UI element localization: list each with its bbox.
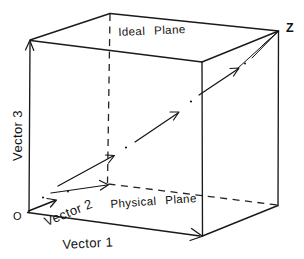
- edge-top-right-front: [202, 31, 279, 62]
- edge-front-left-vertical: [29, 43, 30, 212]
- edge-top-left-back: [30, 14, 110, 41]
- label-physical-word-2: Plane: [165, 192, 197, 206]
- diagonal-segment-1: [51, 185, 107, 193]
- diagonal-segment-4: [199, 69, 238, 95]
- label-physical-gap: [157, 204, 166, 205]
- cube-hidden-edges: [108, 14, 278, 205]
- diagonal-segment-2: [58, 156, 113, 186]
- edge-front-right-vertical: [202, 62, 203, 236]
- label-ideal-word-2: Plane: [154, 23, 186, 36]
- label-origin-point: O: [13, 210, 22, 222]
- vector-space-cube-diagram: IdealPlane PhysicalPlane Vector 3 Vector…: [0, 0, 304, 259]
- vector-2-axis: [29, 199, 57, 212]
- diagonal-dot-3: [125, 146, 127, 148]
- diagonal-dot-2: [67, 191, 69, 193]
- label-vector-1: Vector 1: [62, 234, 114, 252]
- diagonal-dot-1: [42, 196, 44, 198]
- diagonal-segment-3: [135, 113, 178, 142]
- edge-bottom-right: [203, 206, 279, 237]
- label-z-point: Z: [286, 21, 294, 35]
- edge-top-front: [31, 41, 203, 63]
- edge-back-right-vertical: [278, 31, 279, 206]
- label-ideal-word-1: Ideal: [118, 25, 145, 38]
- label-vector-3: Vector 3: [10, 110, 25, 161]
- diagonal-dot-4: [190, 100, 192, 102]
